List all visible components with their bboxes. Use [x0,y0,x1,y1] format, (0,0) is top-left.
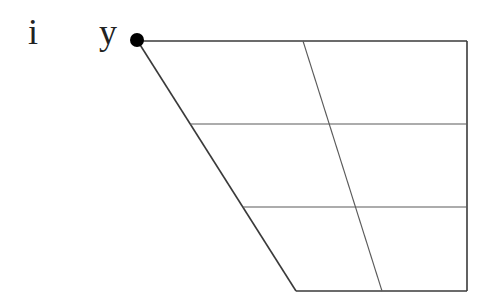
central-gridline [303,41,382,291]
vowel-point-dot [130,33,144,47]
left-slanted-edge [137,40,296,291]
vowel-trapezoid [0,0,492,303]
